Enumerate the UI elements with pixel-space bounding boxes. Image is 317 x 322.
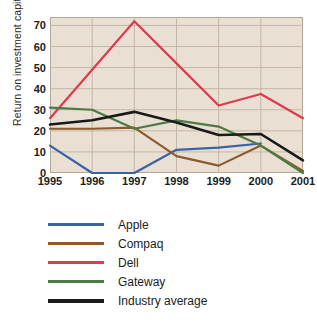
y-tick-label: 50 bbox=[16, 63, 46, 74]
x-tick-label: 1998 bbox=[157, 176, 197, 187]
legend-item-compaq[interactable]: Compaq bbox=[48, 234, 298, 253]
y-tick-label: 40 bbox=[16, 84, 46, 95]
legend-item-label: Industry average bbox=[118, 294, 207, 308]
legend-item-label: Gateway bbox=[118, 275, 165, 289]
legend-swatch-icon bbox=[48, 299, 104, 303]
legend-swatch-icon bbox=[48, 261, 104, 264]
x-tick-label: 2001 bbox=[283, 176, 317, 187]
y-tick-label: 30 bbox=[16, 105, 46, 116]
legend-item-gateway[interactable]: Gateway bbox=[48, 272, 298, 291]
legend-item-label: Compaq bbox=[118, 237, 163, 251]
legend-swatch-icon bbox=[48, 223, 104, 226]
y-tick-label: 20 bbox=[16, 126, 46, 137]
legend-item-apple[interactable]: Apple bbox=[48, 215, 298, 234]
chart-svg bbox=[50, 17, 303, 173]
y-tick-label: 10 bbox=[16, 147, 46, 158]
chart-figure: Return on investment capital 70605040302… bbox=[0, 0, 317, 322]
legend-swatch-icon bbox=[48, 242, 104, 245]
y-axis-tick-labels: 706050403020100 bbox=[12, 17, 46, 173]
x-tick-label: 2000 bbox=[241, 176, 281, 187]
plot-area bbox=[50, 17, 303, 173]
x-tick-label: 1996 bbox=[72, 176, 112, 187]
x-axis-tick-labels: 1995199619971998199920002001 bbox=[50, 176, 303, 192]
x-tick-label: 1999 bbox=[199, 176, 239, 187]
legend-item-dell[interactable]: Dell bbox=[48, 253, 298, 272]
x-tick-label: 1995 bbox=[30, 176, 70, 187]
legend-item-label: Apple bbox=[118, 218, 149, 232]
legend-item-industry-average[interactable]: Industry average bbox=[48, 291, 298, 310]
y-tick-label: 60 bbox=[16, 42, 46, 53]
y-tick-label: 70 bbox=[16, 20, 46, 31]
series-line-apple bbox=[50, 143, 261, 173]
legend-swatch-icon bbox=[48, 280, 104, 283]
x-tick-label: 1997 bbox=[114, 176, 154, 187]
chart-legend: AppleCompaqDellGatewayIndustry average bbox=[48, 215, 298, 310]
legend-item-label: Dell bbox=[118, 256, 139, 270]
